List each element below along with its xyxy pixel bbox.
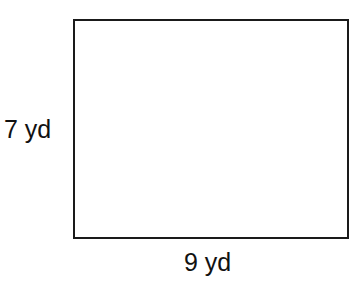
rectangle-shape	[73, 19, 349, 239]
width-label: 9 yd	[184, 250, 231, 275]
height-label: 7 yd	[4, 117, 51, 142]
